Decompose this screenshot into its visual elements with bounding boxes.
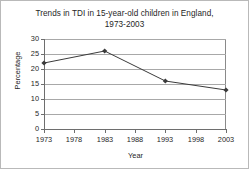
data-point-1973 xyxy=(41,60,46,65)
data-point-1983 xyxy=(102,48,107,53)
data-point-1993 xyxy=(163,78,168,83)
chart-figure: Trends in TDI in 15-year-old children in… xyxy=(0,0,249,169)
series-line xyxy=(44,51,226,90)
data-series-layer xyxy=(0,0,249,169)
data-point-2003 xyxy=(223,87,228,92)
